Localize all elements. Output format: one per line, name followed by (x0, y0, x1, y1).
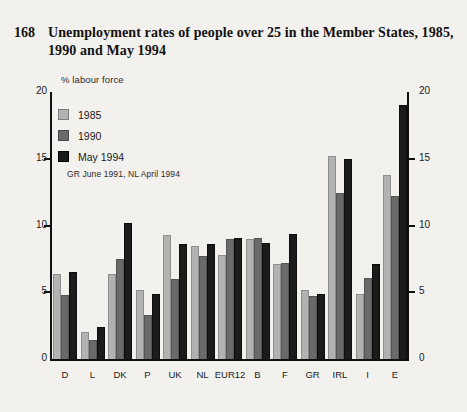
bar-L-1990 (89, 340, 97, 359)
bar-B-1985 (246, 239, 254, 359)
x-axis-label-IRL: IRL (333, 369, 348, 380)
legend-label-may-1994: May 1994 (78, 151, 124, 163)
bar-D-1985 (53, 274, 61, 359)
legend-swatch-1990 (58, 130, 69, 141)
y-axis-unit-label: % labour force (61, 74, 124, 85)
y-tick-label-right-10: 10 (419, 220, 459, 230)
x-axis-label-GR: GR (305, 369, 319, 380)
bar-UK-1985 (163, 235, 171, 359)
bar-EUR12-1985 (218, 255, 226, 359)
bar-D-1990 (61, 295, 69, 359)
bar-I-1990 (364, 278, 372, 359)
y-tick-label-right-0: 0 (419, 353, 459, 363)
y-tick-right-15 (409, 158, 415, 160)
x-axis-label-NL: NL (196, 369, 208, 380)
y-tick-right-5 (409, 291, 415, 293)
y-tick-label-right-5: 5 (419, 286, 459, 296)
chart-area: % labour force 0055101015152020 DLDKPUKN… (0, 0, 467, 412)
x-axis-label-B: B (254, 369, 260, 380)
bar-F-1985 (273, 264, 281, 359)
x-axis-label-EUR12: EUR12 (215, 369, 246, 380)
bar-GR-May-1994 (317, 294, 325, 359)
bar-EUR12-May-1994 (234, 238, 242, 359)
legend-swatch-1985 (58, 109, 69, 120)
bar-F-1990 (281, 263, 289, 359)
bar-I-May-1994 (372, 264, 380, 359)
bar-DK-1985 (108, 274, 116, 359)
legend-swatch-may-1994 (58, 151, 69, 162)
legend-note: GR June 1991, NL April 1994 (67, 169, 288, 179)
bar-UK-1990 (171, 279, 179, 359)
y-tick-label-left-15: 15 (7, 153, 47, 163)
x-axis-label-F: F (282, 369, 288, 380)
legend-item: May 1994 (58, 146, 288, 167)
y-tick-label-right-15: 15 (419, 153, 459, 163)
bar-F-May-1994 (289, 234, 297, 359)
x-axis-label-L: L (90, 369, 95, 380)
x-axis (50, 359, 409, 361)
y-tick-label-left-10: 10 (7, 220, 47, 230)
bar-UK-May-1994 (179, 244, 187, 359)
x-axis-label-UK: UK (168, 369, 181, 380)
legend-item: 1985 (58, 104, 288, 125)
bar-L-1985 (81, 332, 89, 359)
y-axis-left (50, 92, 52, 361)
bar-DK-1990 (116, 259, 124, 359)
legend-item: 1990 (58, 125, 288, 146)
y-tick-label-left-0: 0 (7, 353, 47, 363)
bar-P-May-1994 (152, 294, 160, 359)
bar-E-1990 (391, 196, 399, 359)
bar-NL-1985 (191, 246, 199, 359)
bar-IRL-May-1994 (344, 159, 352, 359)
x-axis-label-DK: DK (113, 369, 126, 380)
bar-E-1985 (383, 175, 391, 359)
y-tick-label-left-20: 20 (7, 86, 47, 96)
bar-IRL-1990 (336, 193, 344, 359)
y-tick-label-right-20: 20 (419, 86, 459, 96)
legend-label-1985: 1985 (78, 109, 101, 121)
bar-NL-1990 (199, 256, 207, 359)
y-axis-right (407, 92, 409, 361)
bar-EUR12-1990 (226, 239, 234, 359)
bar-I-1985 (356, 294, 364, 359)
legend: 1985 1990 May 1994 GR June 1991, NL Apri… (58, 104, 288, 179)
bar-GR-1990 (309, 296, 317, 359)
bar-P-1985 (136, 290, 144, 359)
bar-B-1990 (254, 238, 262, 359)
x-axis-label-E: E (392, 369, 398, 380)
bar-E-May-1994 (399, 105, 407, 359)
legend-label-1990: 1990 (78, 130, 101, 142)
bar-D-May-1994 (69, 272, 77, 359)
x-axis-label-P: P (144, 369, 150, 380)
bar-IRL-1985 (328, 156, 336, 359)
bar-L-May-1994 (97, 327, 105, 359)
x-axis-label-I: I (366, 369, 369, 380)
bar-P-1990 (144, 315, 152, 359)
x-axis-label-D: D (62, 369, 69, 380)
bar-DK-May-1994 (124, 223, 132, 359)
bar-NL-May-1994 (207, 244, 215, 359)
bar-GR-1985 (301, 290, 309, 359)
y-tick-label-left-5: 5 (7, 286, 47, 296)
y-tick-right-10 (409, 225, 415, 227)
figure-page: 168 Unemployment rates of people over 25… (0, 0, 467, 412)
bar-B-May-1994 (262, 243, 270, 359)
